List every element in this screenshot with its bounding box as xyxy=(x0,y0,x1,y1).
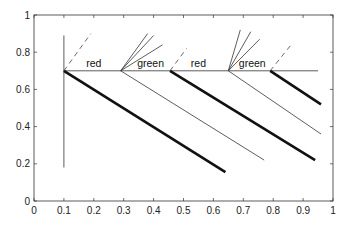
x-tick-label: 0.6 xyxy=(206,205,220,216)
series-line xyxy=(270,45,291,71)
y-tick-label: 0.8 xyxy=(16,47,30,58)
line-chart: 00.10.20.30.40.50.60.70.80.91 00.20.40.6… xyxy=(0,0,352,226)
annotation-label: green xyxy=(239,57,266,69)
x-tick-label: 0.4 xyxy=(147,205,161,216)
y-tick-label: 0 xyxy=(24,196,30,207)
axes-frame xyxy=(34,15,333,201)
x-tick-label: 1 xyxy=(330,205,336,216)
x-tick-label: 0.2 xyxy=(87,205,101,216)
y-tick-label: 0.4 xyxy=(16,121,30,132)
x-tick-label: 0.5 xyxy=(177,205,191,216)
y-tick-label: 1 xyxy=(24,10,30,21)
y-tick-label: 0.6 xyxy=(16,84,30,95)
series-line xyxy=(270,71,321,105)
plot-area xyxy=(64,30,321,172)
annotation-label: red xyxy=(86,57,101,69)
x-tick-label: 0 xyxy=(31,205,37,216)
x-tick-label: 0.8 xyxy=(266,205,280,216)
annotation-label: green xyxy=(137,57,164,69)
annotation-label: red xyxy=(191,57,206,69)
series-line xyxy=(228,71,321,134)
y-tick-label: 0.2 xyxy=(16,158,30,169)
x-tick-label: 0.9 xyxy=(296,205,310,216)
x-tick-label: 0.7 xyxy=(236,205,250,216)
x-axis: 00.10.20.30.40.50.60.70.80.91 xyxy=(31,15,336,216)
series-line xyxy=(170,49,187,71)
x-tick-label: 0.3 xyxy=(117,205,131,216)
x-tick-label: 0.1 xyxy=(57,205,71,216)
